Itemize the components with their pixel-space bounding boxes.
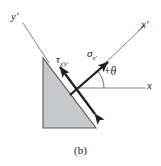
axis-label-x: x xyxy=(147,80,152,91)
figure-canvas xyxy=(0,0,161,166)
axis-label-y-prime: y′ xyxy=(11,11,18,22)
shear-stress-label-tau-xy-prime: τx′y′ xyxy=(56,54,68,65)
angle-label-theta: +θ xyxy=(104,66,116,78)
normal-stress-label-sigma-x-prime: σx′ xyxy=(87,48,97,59)
figure-caption: (b) xyxy=(0,144,161,156)
axis-label-x-prime: x′ xyxy=(141,19,148,30)
stress-element-figure: y′ x′ x τx′y′ σx′ +θ (b) xyxy=(0,0,161,166)
wedge-shape xyxy=(43,58,96,128)
y-prime-axis-line xyxy=(23,23,49,63)
